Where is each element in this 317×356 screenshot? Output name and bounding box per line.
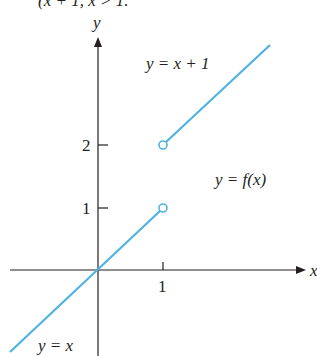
open-circle-icon: [159, 204, 167, 212]
piecewise-function-graph: (x + 1, x > 1. x y 1 1 2 y = x + 1 y = f…: [0, 0, 317, 356]
x-tick-label-1: 1: [158, 277, 167, 296]
annotation-upper: y = x + 1: [144, 54, 210, 73]
x-axis-label: x: [309, 261, 317, 280]
annotation-lower: y = x: [36, 336, 74, 355]
x-axis-arrow-icon: [296, 266, 306, 274]
annotations: y = x + 1 y = f(x) y = x: [36, 54, 266, 355]
open-circle-icon: [159, 141, 167, 149]
line-y-equals-x: [10, 211, 160, 352]
header-fragment: (x + 1, x > 1.: [38, 0, 128, 10]
y-tick-label-2: 2: [82, 136, 91, 155]
curves: [10, 45, 270, 352]
y-tick-label-1: 1: [82, 199, 91, 218]
annotation-func: y = f(x): [213, 170, 266, 189]
y-axis-arrow-icon: [94, 37, 102, 47]
y-axis-label: y: [91, 13, 101, 32]
